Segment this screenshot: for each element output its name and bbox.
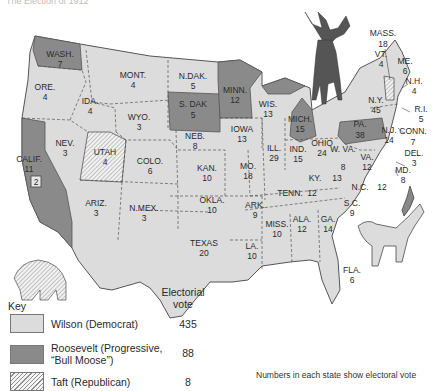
svg-text:9: 9 bbox=[253, 210, 258, 220]
svg-text:14: 14 bbox=[323, 224, 333, 234]
svg-text:2: 2 bbox=[34, 177, 39, 187]
svg-text:15: 15 bbox=[293, 154, 303, 164]
state-vt bbox=[384, 76, 394, 100]
svg-text:MISS.: MISS. bbox=[265, 219, 288, 229]
svg-text:12: 12 bbox=[362, 162, 372, 172]
svg-text:12: 12 bbox=[230, 95, 240, 105]
legend-row-taft: Taft (Republican) bbox=[10, 372, 171, 391]
svg-text:10: 10 bbox=[247, 251, 257, 261]
svg-text:18: 18 bbox=[378, 39, 388, 49]
svg-text:MICH.: MICH. bbox=[288, 114, 312, 124]
swatch-wilson bbox=[10, 314, 44, 333]
svg-text:R.I.: R.I. bbox=[414, 104, 427, 114]
svg-text:12: 12 bbox=[307, 188, 317, 198]
moose-icon bbox=[305, 12, 350, 104]
svg-text:KAN.: KAN. bbox=[197, 163, 217, 173]
elephant-icon bbox=[14, 260, 66, 300]
svg-text:WIS.: WIS. bbox=[259, 99, 277, 109]
svg-text:ORE.: ORE. bbox=[35, 82, 56, 92]
donkey-icon bbox=[358, 186, 424, 266]
votes-wilson: 435 bbox=[168, 318, 208, 330]
svg-text:6: 6 bbox=[148, 166, 153, 176]
map-title: The Election of 1912 bbox=[6, 0, 89, 6]
svg-text:3: 3 bbox=[94, 208, 99, 218]
svg-text:VA.: VA. bbox=[360, 152, 373, 162]
svg-text:S. DAK: S. DAK bbox=[179, 99, 207, 109]
svg-text:NEB.: NEB. bbox=[185, 131, 205, 141]
svg-text:12: 12 bbox=[377, 182, 387, 192]
footnote: Numbers in each state show electoral vot… bbox=[256, 370, 416, 380]
svg-text:5: 5 bbox=[191, 110, 196, 120]
svg-text:5: 5 bbox=[191, 81, 196, 91]
svg-text:24: 24 bbox=[317, 148, 327, 158]
svg-text:4: 4 bbox=[43, 92, 48, 102]
svg-text:13: 13 bbox=[237, 134, 247, 144]
svg-text:GA.: GA. bbox=[321, 214, 336, 224]
svg-text:ILL.: ILL. bbox=[267, 143, 281, 153]
svg-text:LA.: LA. bbox=[246, 241, 259, 251]
svg-text:KY.: KY. bbox=[309, 173, 322, 183]
svg-text:5: 5 bbox=[419, 114, 424, 124]
svg-text:MD.: MD. bbox=[395, 165, 411, 175]
legend-row-wilson: Wilson (Democrat) bbox=[10, 314, 171, 333]
svg-text:45: 45 bbox=[371, 105, 381, 115]
svg-text:UTAH: UTAH bbox=[94, 147, 117, 157]
svg-text:3: 3 bbox=[412, 158, 417, 168]
votes-taft: 8 bbox=[168, 376, 208, 388]
svg-text:4: 4 bbox=[412, 86, 417, 96]
svg-text:MONT.: MONT. bbox=[120, 70, 146, 80]
svg-text:NEV.: NEV. bbox=[55, 138, 74, 148]
svg-text:S.C.: S.C. bbox=[344, 198, 361, 208]
svg-text:3: 3 bbox=[137, 122, 142, 132]
svg-text:6: 6 bbox=[350, 275, 355, 285]
svg-text:N.C.: N.C. bbox=[352, 182, 369, 192]
svg-text:CONN.: CONN. bbox=[399, 126, 426, 136]
svg-text:7: 7 bbox=[58, 59, 63, 69]
swatch-roosevelt bbox=[10, 345, 44, 364]
svg-text:12: 12 bbox=[297, 224, 307, 234]
svg-text:11: 11 bbox=[25, 164, 34, 174]
svg-text:10: 10 bbox=[202, 173, 212, 183]
svg-text:4: 4 bbox=[131, 80, 136, 90]
svg-text:8: 8 bbox=[193, 141, 198, 151]
svg-text:TENN.: TENN. bbox=[277, 188, 303, 198]
svg-text:13: 13 bbox=[263, 109, 273, 119]
votes-roosevelt: 88 bbox=[168, 347, 208, 359]
svg-text:3: 3 bbox=[63, 148, 68, 158]
svg-text:IOWA: IOWA bbox=[231, 124, 254, 134]
svg-text:38: 38 bbox=[355, 130, 365, 140]
svg-text:WYO.: WYO. bbox=[128, 112, 151, 122]
svg-text:15: 15 bbox=[295, 124, 305, 134]
svg-text:N.MEX.: N.MEX. bbox=[129, 203, 158, 213]
svg-text:8: 8 bbox=[401, 175, 406, 185]
svg-text:N.J.: N.J. bbox=[381, 125, 396, 135]
svg-text:IDA.: IDA. bbox=[82, 96, 99, 106]
svg-text:N.H.: N.H. bbox=[406, 76, 423, 86]
svg-text:FLA.: FLA. bbox=[343, 265, 361, 275]
svg-text:9: 9 bbox=[350, 208, 355, 218]
svg-text:N.Y.: N.Y. bbox=[368, 95, 383, 105]
svg-text:ME.: ME. bbox=[397, 56, 412, 66]
svg-text:COLO.: COLO. bbox=[137, 156, 163, 166]
svg-text:13: 13 bbox=[332, 173, 342, 183]
svg-text:4: 4 bbox=[88, 106, 93, 116]
svg-text:DEL.: DEL. bbox=[405, 148, 424, 158]
svg-text:ARK.: ARK. bbox=[245, 200, 265, 210]
svg-text:7: 7 bbox=[411, 137, 416, 147]
svg-text:ALA.: ALA. bbox=[293, 214, 311, 224]
svg-text:4: 4 bbox=[379, 59, 384, 69]
svg-text:29: 29 bbox=[269, 153, 279, 163]
svg-text:MO.: MO. bbox=[240, 161, 256, 171]
label-wash: WASH. bbox=[46, 49, 74, 59]
svg-text:CALIF.: CALIF. bbox=[16, 154, 42, 164]
svg-text:TEXAS: TEXAS bbox=[190, 238, 218, 248]
svg-text:MINN.: MINN. bbox=[223, 85, 247, 95]
svg-text:8: 8 bbox=[341, 162, 346, 172]
svg-text:10: 10 bbox=[272, 229, 282, 239]
svg-text:6: 6 bbox=[403, 66, 408, 76]
svg-text:W. VA.: W. VA. bbox=[330, 144, 355, 154]
svg-text:N.DAK.: N.DAK. bbox=[179, 71, 207, 81]
svg-text:10: 10 bbox=[207, 205, 217, 215]
svg-text:PA.: PA. bbox=[353, 119, 366, 129]
svg-text:4: 4 bbox=[103, 157, 108, 167]
